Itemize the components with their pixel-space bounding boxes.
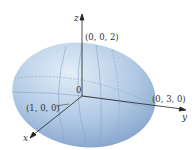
y-axis-label: y — [182, 113, 187, 122]
y-intercept-label: (0, 3, 0) — [152, 95, 186, 104]
x-axis-label: x — [23, 134, 28, 143]
ellipsoid-surface — [5, 33, 162, 150]
x-intercept-label: (1, 0, 0) — [26, 104, 60, 113]
ellipsoid-diagram: z (0, 0, 2) 0 (1, 0, 0) (0, 3, 0) y x — [0, 0, 192, 150]
z-arrow-icon — [80, 14, 84, 20]
z-axis-label: z — [74, 14, 79, 23]
origin-label: 0 — [76, 86, 81, 95]
y-arrow-icon — [179, 107, 186, 111]
ellipsoid-figure — [0, 0, 192, 150]
z-intercept-label: (0, 0, 2) — [85, 33, 119, 42]
